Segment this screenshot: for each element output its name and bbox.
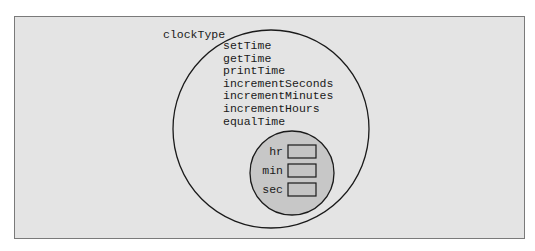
member-function: equalTime [223,116,333,129]
sec-value-box [288,183,316,196]
member-variable-sec-label: sec [243,183,283,196]
member-function: printTime [223,65,333,78]
member-variable-hr-label: hr [243,145,283,158]
min-value-box [288,164,316,177]
class-name-label: clockType [163,29,225,42]
member-function: setTime [223,40,333,53]
hr-value-box [288,145,316,158]
member-function: incrementHours [223,103,333,116]
member-function-list: setTime getTime printTime incrementSecon… [223,40,333,128]
member-variable-min-label: min [243,164,283,177]
